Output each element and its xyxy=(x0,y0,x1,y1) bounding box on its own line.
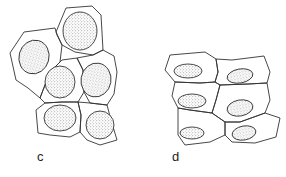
cell-outline xyxy=(178,108,225,145)
panel-label-d: d xyxy=(172,149,179,164)
nucleus xyxy=(226,67,254,85)
nucleus xyxy=(174,64,202,78)
nucleus xyxy=(15,37,53,78)
nucleus xyxy=(178,94,206,108)
nucleus xyxy=(63,12,97,50)
nucleus xyxy=(231,124,257,142)
panel-d xyxy=(165,52,280,145)
nucleus xyxy=(226,98,254,118)
panel-c xyxy=(10,6,117,145)
nucleus xyxy=(180,127,204,139)
nucleus xyxy=(44,105,76,131)
nucleus xyxy=(86,111,114,139)
panel-label-c: c xyxy=(37,149,44,164)
nucleus xyxy=(45,66,75,98)
